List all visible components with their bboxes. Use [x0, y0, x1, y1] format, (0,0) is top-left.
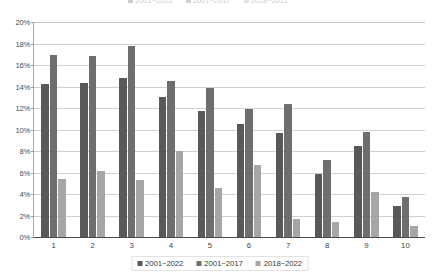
- bar[interactable]: [276, 133, 284, 237]
- bar[interactable]: [323, 160, 331, 237]
- bar[interactable]: [245, 109, 253, 237]
- bar-group: 3: [112, 22, 151, 237]
- x-axis-tick-label: 7: [269, 241, 308, 250]
- y-axis-tick-label: 20%: [15, 18, 30, 27]
- bar[interactable]: [41, 84, 49, 237]
- y-axis-tick-label: 14%: [15, 82, 30, 91]
- legend-item[interactable]: 2001~2017: [196, 259, 242, 268]
- bar-group: 1: [34, 22, 73, 237]
- bar-group: 5: [190, 22, 229, 237]
- x-axis-tick-label: 10: [386, 241, 425, 250]
- y-axis-tick-label: 2%: [19, 211, 30, 220]
- x-axis-tick-label: 4: [151, 241, 190, 250]
- bar[interactable]: [371, 192, 379, 237]
- legend-swatch-icon: [196, 261, 201, 266]
- y-axis-tick-label: 6%: [19, 168, 30, 177]
- bar[interactable]: [176, 151, 184, 237]
- bar[interactable]: [198, 111, 206, 237]
- bar[interactable]: [50, 55, 58, 237]
- bar[interactable]: [332, 222, 340, 237]
- bar-group: 7: [269, 22, 308, 237]
- bar[interactable]: [363, 132, 371, 237]
- y-axis-tick-label: 16%: [15, 61, 30, 70]
- bar-group: 6: [229, 22, 268, 237]
- y-axis-tick-label: 0%: [19, 233, 30, 242]
- bar[interactable]: [393, 206, 401, 237]
- y-axis-tick-label: 8%: [19, 147, 30, 156]
- legend-item-label: 2018~2022: [264, 259, 302, 268]
- bar[interactable]: [402, 197, 410, 237]
- bar[interactable]: [128, 46, 136, 237]
- grouped-bar-chart: 0%2%4%6%8%10%12%14%16%18%20% 12345678910…: [0, 0, 439, 277]
- legend-item[interactable]: 2001~2022: [137, 259, 183, 268]
- x-axis-tick-label: 1: [34, 241, 73, 250]
- y-axis-tick-label: 18%: [15, 39, 30, 48]
- chart-legend: 2001~20222001~20172018~2022: [131, 256, 308, 271]
- legend-item-label: 2001~2017: [204, 259, 242, 268]
- y-axis-tick-label: 12%: [15, 104, 30, 113]
- plot-area: 0%2%4%6%8%10%12%14%16%18%20% 12345678910: [33, 22, 425, 237]
- bar-groups: 12345678910: [34, 22, 425, 237]
- legend-item-label: 2001~2022: [145, 259, 183, 268]
- legend-swatch-icon: [256, 261, 261, 266]
- y-axis-tick-label: 4%: [19, 190, 30, 199]
- bar-group: 10: [386, 22, 425, 237]
- x-axis-tick-label: 8: [308, 241, 347, 250]
- x-axis-tick-label: 3: [112, 241, 151, 250]
- bar[interactable]: [206, 88, 214, 237]
- bar[interactable]: [254, 165, 262, 237]
- bar[interactable]: [410, 226, 418, 237]
- x-axis-tick-label: 2: [73, 241, 112, 250]
- bar[interactable]: [293, 219, 301, 237]
- bar[interactable]: [237, 124, 245, 237]
- bar[interactable]: [354, 146, 362, 237]
- bar[interactable]: [119, 78, 127, 237]
- bar[interactable]: [58, 179, 66, 237]
- y-axis-tick-label: 10%: [15, 125, 30, 134]
- bar[interactable]: [215, 188, 223, 237]
- bar[interactable]: [167, 81, 175, 237]
- bar[interactable]: [89, 56, 97, 237]
- bar[interactable]: [97, 171, 105, 237]
- bar[interactable]: [136, 180, 144, 237]
- x-axis-tick-label: 6: [229, 241, 268, 250]
- y-tick-mark: [31, 237, 34, 238]
- bar-group: 9: [347, 22, 386, 237]
- legend-swatch-icon: [137, 261, 142, 266]
- bar-group: 8: [308, 22, 347, 237]
- bar[interactable]: [159, 97, 167, 237]
- x-axis-tick-label: 9: [347, 241, 386, 250]
- bar[interactable]: [315, 174, 323, 237]
- bar[interactable]: [80, 83, 88, 237]
- x-axis-tick-label: 5: [190, 241, 229, 250]
- axis-baseline: [34, 237, 425, 238]
- bar-group: 4: [151, 22, 190, 237]
- bar-group: 2: [73, 22, 112, 237]
- bar[interactable]: [284, 104, 292, 237]
- legend-item[interactable]: 2018~2022: [256, 259, 302, 268]
